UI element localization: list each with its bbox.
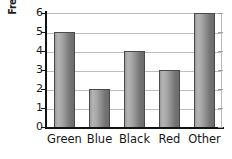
x-axis-tick-label: Red: [152, 132, 187, 147]
y-axis-tick-mark: [41, 108, 46, 109]
bar: [54, 32, 75, 127]
y-axis-tick-mark: [41, 127, 46, 128]
y-axis-tick-mark: [41, 51, 46, 52]
x-axis-tick-label: Blue: [82, 132, 117, 147]
x-axis-tick-label: Black: [117, 132, 152, 147]
bar-chart: Frequency 0123456 GreenBlueBlackRedOther: [0, 0, 232, 159]
x-axis-tick-label: Other: [187, 132, 222, 147]
bar-series: [47, 14, 221, 127]
y-axis-tick-mark: [41, 32, 46, 33]
x-axis-line: [45, 127, 224, 129]
y-axis-tick-mark: [41, 13, 46, 14]
y-axis-tick-mark-right: [218, 127, 223, 128]
y-axis-tick-mark: [41, 70, 46, 71]
y-axis-tick-mark-right: [218, 108, 223, 109]
plot-area: [47, 13, 222, 127]
y-axis-tick-mark-right: [218, 70, 223, 71]
y-axis-tick-mark: [41, 89, 46, 90]
y-axis-tick-mark-right: [218, 32, 223, 33]
y-axis-title: Frequency: [5, 0, 19, 32]
y-axis-tick-mark-right: [218, 51, 223, 52]
bar: [124, 51, 145, 127]
y-axis-tick-mark-right: [218, 13, 223, 14]
bar: [89, 89, 110, 127]
y-axis-tick-mark-right: [218, 89, 223, 90]
y-axis-title-text: Frequency: [5, 0, 19, 27]
bar: [159, 70, 180, 127]
bar: [194, 13, 215, 127]
x-axis-tick-label: Green: [47, 132, 82, 147]
x-axis-tick-labels: GreenBlueBlackRedOther: [45, 132, 224, 152]
